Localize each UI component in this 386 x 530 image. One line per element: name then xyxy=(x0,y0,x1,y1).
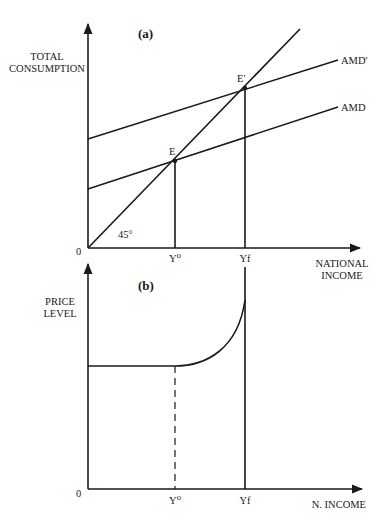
panel-a-y0-tick-label: Y⁰ xyxy=(169,253,181,264)
amd-label: AMD xyxy=(341,102,366,113)
point-e-prime-marker xyxy=(243,86,247,90)
panel-b: (b) PRICE LEVEL 0 Y⁰ Yf N. INCOME xyxy=(43,264,366,510)
panel-a-origin-label: 0 xyxy=(76,246,81,257)
keynesian-cross-diagram: (a) TOTAL CONSUMPTION E′ E AMD′ AMD 45° … xyxy=(0,0,386,530)
national-income-label-2: INCOME xyxy=(321,270,362,281)
panel-a: (a) TOTAL CONSUMPTION E′ E AMD′ AMD 45° … xyxy=(9,24,368,281)
point-e-label: E xyxy=(169,146,175,157)
panel-b-origin-label: 0 xyxy=(76,488,81,499)
point-e-prime-label: E′ xyxy=(237,73,246,84)
price-level-label-2: LEVEL xyxy=(43,308,76,319)
panel-b-yf-tick-label: Yf xyxy=(239,495,251,506)
panel-b-label: (b) xyxy=(138,278,154,293)
n-income-label: N. INCOME xyxy=(312,499,366,510)
panel-b-y0-tick-label: Y⁰ xyxy=(169,495,181,506)
national-income-label-1: NATIONAL xyxy=(315,258,368,269)
price-level-curve xyxy=(88,300,245,366)
total-consumption-label-1: TOTAL xyxy=(30,51,63,62)
panel-a-label: (a) xyxy=(138,26,153,41)
price-level-label-1: PRICE xyxy=(45,296,75,307)
angle-45-label: 45° xyxy=(118,229,133,240)
amd-prime-line xyxy=(88,60,338,139)
amd-prime-label: AMD′ xyxy=(341,55,368,66)
point-e-marker xyxy=(173,159,177,163)
45-degree-line xyxy=(88,29,300,248)
total-consumption-label-2: CONSUMPTION xyxy=(9,63,85,74)
panel-a-yf-tick-label: Yf xyxy=(239,253,251,264)
